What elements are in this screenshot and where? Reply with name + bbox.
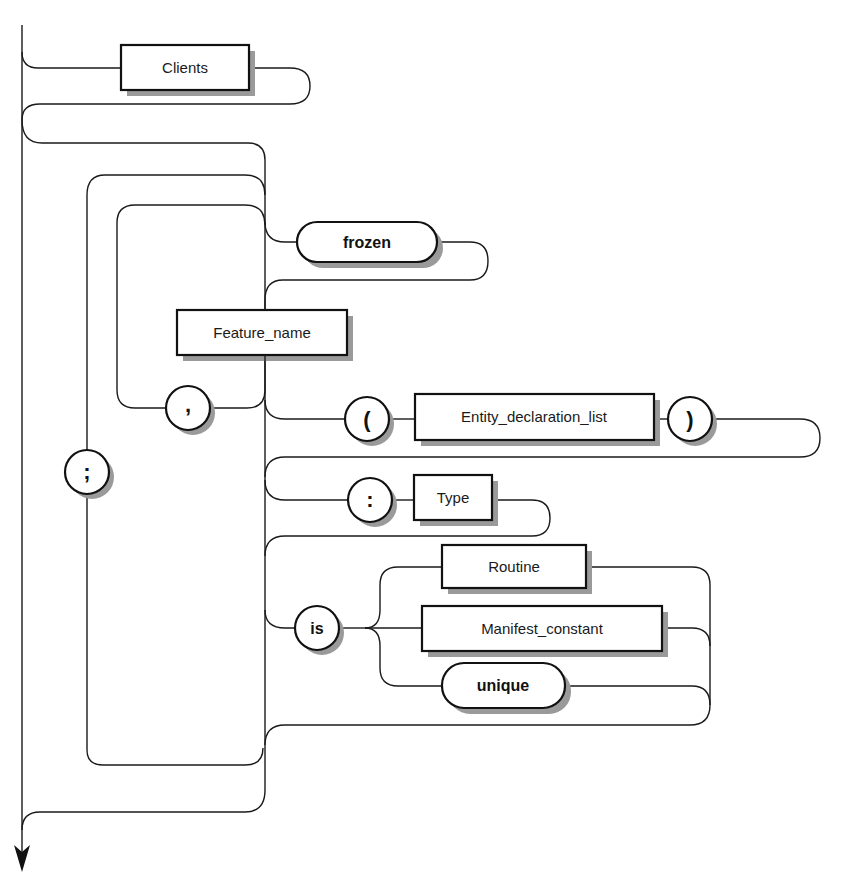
routine-label: Routine [488,558,540,575]
routine-node[interactable]: Routine [442,545,592,594]
manifest-out [662,628,710,646]
entity-declaration-list-label: Entity_declaration_list [461,408,608,425]
semicolon-loop-bottom [87,494,263,765]
is-keyword-node[interactable]: is [295,606,344,655]
frozen-in [265,222,297,242]
syntax-diagram: Clients frozen Feature_name , ; ( Entity… [0,0,841,875]
type-label: Type [437,489,470,506]
colon-label: : [366,487,373,512]
feature-name-node[interactable]: Feature_name [177,310,353,361]
manifest-constant-label: Manifest_constant [481,620,604,637]
entity-declaration-list-node[interactable]: Entity_declaration_list [415,394,660,446]
entity-in [265,400,345,419]
is-label: is [310,620,323,637]
open-paren-symbol-node[interactable]: ( [345,397,394,446]
type-in [265,480,348,500]
colon-symbol-node[interactable]: : [348,478,397,527]
frozen-keyword-node[interactable]: frozen [297,222,443,268]
clients-branch-in [22,52,121,68]
unique-keyword-node[interactable]: unique [442,663,571,714]
feature-name-label: Feature_name [213,324,311,341]
semicolon-label: ; [83,459,90,484]
close-paren-symbol-node[interactable]: ) [668,397,717,446]
unique-label: unique [477,677,530,694]
comma-label: , [185,392,191,417]
comma-loop-return [210,390,265,408]
clients-node[interactable]: Clients [121,45,255,96]
is-in [265,610,295,628]
comma-symbol-node[interactable]: , [166,386,215,435]
frozen-label: frozen [343,234,391,251]
comma-loop [117,205,265,408]
clients-label: Clients [162,59,208,76]
semicolon-symbol-node[interactable]: ; [65,450,114,499]
type-node[interactable]: Type [414,475,498,526]
manifest-constant-node[interactable]: Manifest_constant [422,606,668,657]
unique-out [565,686,710,705]
close-paren-label: ) [686,407,693,432]
rails [14,25,820,872]
exit-rail [22,790,265,830]
open-paren-label: ( [363,407,371,432]
